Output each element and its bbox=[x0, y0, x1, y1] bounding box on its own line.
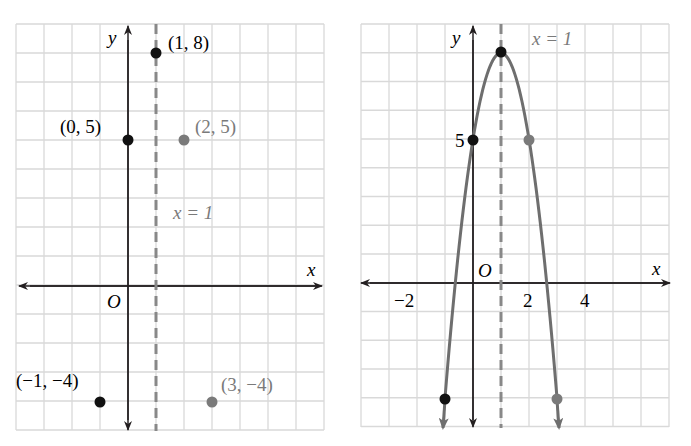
x-tick-2: 2 bbox=[523, 290, 533, 311]
point-neg1-neg4 bbox=[440, 394, 451, 405]
y-tick-5: 5 bbox=[455, 130, 465, 151]
point-1-8 bbox=[151, 48, 162, 59]
right-origin-label: O bbox=[478, 260, 492, 281]
point-0-5 bbox=[123, 135, 134, 146]
vertex-point bbox=[496, 47, 507, 58]
x-tick-neg2: −2 bbox=[394, 290, 414, 311]
label-3-neg4: (3, −4) bbox=[221, 374, 273, 396]
right-graph: y x O x = 1 5 −2 2 4 bbox=[361, 24, 670, 428]
left-y-axis-label: y bbox=[106, 27, 117, 48]
label-2-5: (2, 5) bbox=[195, 116, 236, 138]
left-axis-of-symmetry-label: x = 1 bbox=[172, 202, 213, 223]
point-neg1-neg4 bbox=[95, 397, 106, 408]
figure-canvas: y x O (1, 8) (0, 5) (2, 5) (−1, −4) (3, … bbox=[0, 0, 691, 446]
label-1-8: (1, 8) bbox=[168, 32, 209, 54]
reflected-point-2-5 bbox=[524, 135, 535, 146]
point-3-neg4 bbox=[207, 397, 218, 408]
right-x-axis-label: x bbox=[651, 258, 661, 279]
label-neg1-neg4: (−1, −4) bbox=[16, 370, 79, 392]
x-tick-4: 4 bbox=[580, 290, 590, 311]
point-3-neg4 bbox=[552, 394, 563, 405]
right-axis-of-symmetry-label: x = 1 bbox=[531, 28, 572, 49]
point-2-5 bbox=[179, 135, 190, 146]
left-graph: y x O (1, 8) (0, 5) (2, 5) (−1, −4) (3, … bbox=[16, 24, 324, 431]
label-0-5: (0, 5) bbox=[60, 116, 101, 138]
y-intercept-point bbox=[468, 135, 479, 146]
right-grid bbox=[361, 24, 669, 427]
left-origin-label: O bbox=[107, 291, 121, 312]
right-y-axis-label: y bbox=[450, 27, 461, 48]
left-x-axis-label: x bbox=[306, 259, 316, 280]
